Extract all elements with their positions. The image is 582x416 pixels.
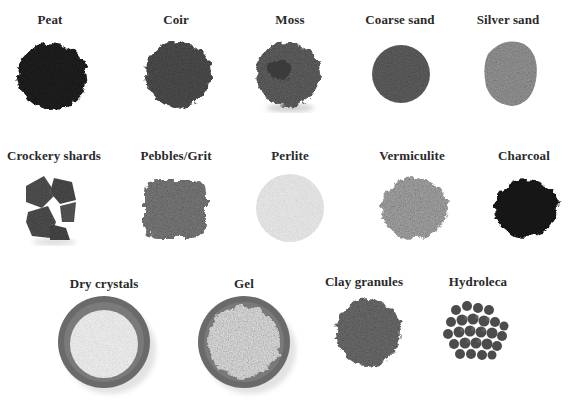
- crockery-shards-image: [20, 172, 90, 247]
- clay-granules-image: [332, 294, 408, 372]
- label-moss: Moss: [275, 12, 304, 28]
- silver-sand-image: [474, 36, 546, 112]
- pebbles-grit-image: [140, 174, 215, 244]
- dry-crystals-bowl-image: [56, 294, 156, 394]
- gel-bowl-image: [196, 294, 296, 394]
- label-silver-sand: Silver sand: [477, 12, 540, 28]
- label-hydroleca: Hydroleca: [449, 274, 507, 290]
- hydroleca-image: [442, 298, 514, 364]
- label-clay-granules: Clay granules: [325, 274, 403, 290]
- label-peat: Peat: [38, 12, 63, 28]
- charcoal-image: [492, 174, 566, 244]
- label-crockery-shards: Crockery shards: [7, 148, 101, 164]
- coarse-sand-image: [366, 40, 438, 108]
- label-perlite: Perlite: [271, 148, 309, 164]
- label-charcoal: Charcoal: [498, 148, 550, 164]
- coir-image: [140, 36, 220, 116]
- label-gel: Gel: [234, 276, 254, 292]
- vermiculite-image: [378, 174, 454, 244]
- label-vermiculite: Vermiculite: [379, 148, 445, 164]
- label-pebbles-grit: Pebbles/Grit: [140, 148, 211, 164]
- peat-image: [12, 36, 92, 116]
- moss-image: [248, 36, 328, 116]
- perlite-image: [250, 170, 330, 248]
- label-dry-crystals: Dry crystals: [70, 276, 139, 292]
- label-coarse-sand: Coarse sand: [365, 12, 434, 28]
- label-coir: Coir: [163, 12, 189, 28]
